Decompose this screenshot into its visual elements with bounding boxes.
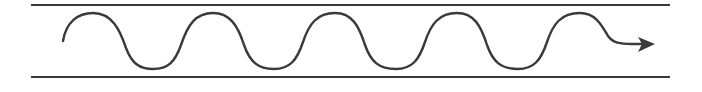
wave-guide-diagram	[0, 0, 702, 92]
sine-wave-path	[63, 13, 642, 69]
wave-diagram-svg	[0, 0, 702, 92]
